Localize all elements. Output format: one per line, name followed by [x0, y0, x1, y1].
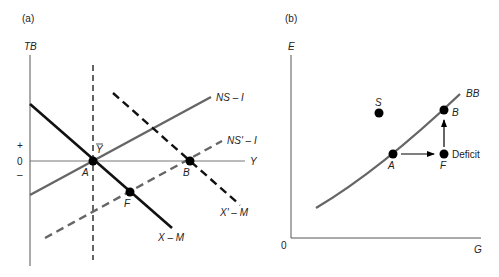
- point-a2: [389, 150, 398, 159]
- point-b-label: B: [183, 167, 190, 178]
- zero-tick: 0: [17, 156, 23, 167]
- point-b: [186, 157, 195, 166]
- panel-b-tag: (b): [285, 13, 297, 24]
- figure-svg: (a) TB Y + 0 – Y NS – I NS' – I X – M X'…: [0, 0, 499, 277]
- plus-tick: +: [17, 140, 23, 151]
- x-minus-m-label: X – M: [157, 232, 185, 243]
- deficit-label: Deficit: [452, 149, 480, 160]
- panel-a-tag: (a): [22, 13, 34, 24]
- point-f: [126, 188, 135, 197]
- minus-tick: –: [17, 169, 23, 180]
- g-axis-label: G: [474, 244, 482, 255]
- point-f2-label: F: [440, 160, 447, 171]
- figure-root: (a) TB Y + 0 – Y NS – I NS' – I X – M X'…: [0, 0, 499, 277]
- point-b2-label: B: [452, 107, 459, 118]
- bb-curve: [316, 94, 460, 208]
- point-b2: [440, 106, 449, 115]
- y-axis-label: Y: [250, 156, 258, 167]
- point-a-label: A: [81, 167, 89, 178]
- origin-label: 0: [281, 240, 287, 251]
- point-a: [89, 157, 98, 166]
- point-s-label: S: [375, 97, 382, 108]
- ybar-label: Y: [96, 144, 104, 155]
- point-f-label: F: [124, 198, 131, 209]
- panel-a: (a) TB Y + 0 – Y NS – I NS' – I X – M X'…: [17, 13, 258, 266]
- ns-minus-i-curve: [30, 97, 211, 195]
- e-axis-label: E: [288, 41, 295, 52]
- ns-minus-i-label: NS – I: [216, 92, 244, 103]
- ns-prime-minus-i-label: NS' – I: [227, 135, 257, 146]
- bb-label: BB: [466, 88, 480, 99]
- point-a2-label: A: [387, 160, 395, 171]
- panel-b: (b) E 0 G BB S B A F Deficit: [281, 13, 482, 255]
- point-s: [375, 109, 384, 118]
- x-minus-m-curve: [30, 104, 172, 228]
- x-prime-minus-m-label: X' – M: [219, 207, 249, 218]
- point-f2: [440, 150, 449, 159]
- tb-axis-label: TB: [24, 41, 37, 52]
